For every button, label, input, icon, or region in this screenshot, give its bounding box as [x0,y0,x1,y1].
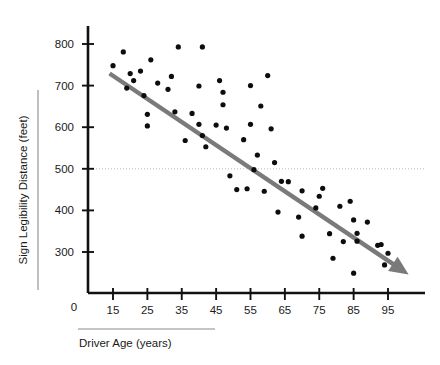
data-point [385,251,390,256]
data-point [299,234,304,239]
data-point [121,49,126,54]
data-point [382,262,387,267]
data-point [275,209,280,214]
trendline-group [110,74,409,275]
x-tick-label-85: 85 [347,304,360,316]
x-tick-label-75: 75 [313,304,326,316]
plot-canvas: 300400500600700800 152535455565758595 Si… [0,0,440,365]
data-point [255,152,260,157]
data-point [128,71,133,76]
x-tick-label-45: 45 [210,304,223,316]
data-point [131,78,136,83]
data-point [224,125,229,130]
data-point [169,74,174,79]
data-point [351,271,356,276]
x-tick-label-25: 25 [141,304,154,316]
data-point [176,44,181,49]
data-point [327,231,332,236]
data-point [348,199,353,204]
data-point [248,83,253,88]
data-point [220,102,225,107]
data-point [220,90,225,95]
data-point [341,239,346,244]
x-tick-label-35: 35 [175,304,188,316]
trend-line-arrowhead [388,257,409,275]
x-tick-label-15: 15 [107,304,120,316]
data-point [200,44,205,49]
y-tick-label-700: 700 [55,80,74,92]
data-point [272,160,277,165]
data-point [244,186,249,191]
data-point [379,242,384,247]
data-point [248,122,253,127]
origin-label: 0 [71,301,77,313]
data-point [183,138,188,143]
data-point [365,219,370,224]
data-point [214,123,219,128]
data-point [251,167,256,172]
y-tick-label-800: 800 [55,38,74,50]
data-point [196,122,201,127]
data-point [165,87,170,92]
y-tick-label-600: 600 [55,121,74,133]
data-point [227,173,232,178]
data-point [241,137,246,142]
data-point [286,179,291,184]
data-point [196,83,201,88]
x-axis-title: Driver Age (years) [79,337,172,349]
data-point [337,204,342,209]
data-point [296,214,301,219]
data-point [330,256,335,261]
y-axis-title: Sign Legibility Distance (feet) [17,115,29,264]
data-point [313,205,318,210]
data-point [351,217,356,222]
data-point [203,144,208,149]
data-point [354,231,359,236]
data-point [141,93,146,98]
y-tick-label-500: 500 [55,163,74,175]
data-point [189,111,194,116]
data-point [320,186,325,191]
data-point [262,189,267,194]
data-point [258,103,263,108]
data-point [265,73,270,78]
data-point [200,133,205,138]
x-tick-label-65: 65 [278,304,291,316]
y-tick-label-300: 300 [55,246,74,258]
data-point [234,187,239,192]
data-point [148,57,153,62]
data-point [145,112,150,117]
data-point [317,194,322,199]
data-point [217,78,222,83]
x-tick-label-95: 95 [382,304,395,316]
data-point [269,126,274,131]
scatter-plot-figure: 300400500600700800 152535455565758595 Si… [0,0,440,365]
data-point [110,63,115,68]
data-point [172,109,177,114]
data-point [354,239,359,244]
data-points-group [110,44,390,276]
data-point [279,179,284,184]
x-tick-label-55: 55 [244,304,257,316]
data-point [299,188,304,193]
data-point [124,85,129,90]
data-point [155,81,160,86]
y-tick-label-400: 400 [55,204,74,216]
data-point [138,68,143,73]
data-point [145,123,150,128]
